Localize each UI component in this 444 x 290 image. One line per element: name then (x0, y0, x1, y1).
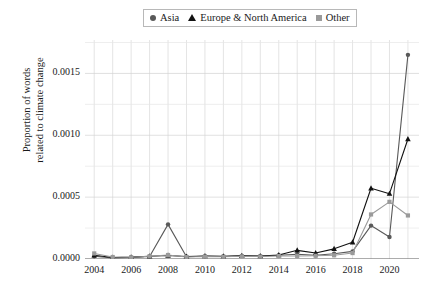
square-icon (316, 15, 322, 21)
y-tick-label: 0.0015 (32, 66, 80, 77)
x-tick-label: 2020 (369, 264, 409, 275)
x-tick-label: 2010 (185, 264, 225, 275)
plot-svg (85, 40, 419, 259)
plot-area (85, 40, 419, 259)
legend-label-europe-north-america: Europe & North America (200, 11, 306, 24)
legend-entry-asia[interactable]: Asia (150, 11, 179, 24)
x-tick-label: 2004 (74, 264, 114, 275)
x-tick-label: 2016 (296, 264, 336, 275)
legend-label-other: Other (326, 11, 350, 24)
chart-legend: Asia Europe & North America Other (143, 9, 357, 27)
legend-entry-other[interactable]: Other (316, 11, 350, 24)
x-tick-label: 2012 (222, 264, 262, 275)
x-tick-label: 2018 (333, 264, 373, 275)
y-tick-label: 0.0005 (32, 190, 80, 201)
y-tick-label: 0.0010 (32, 128, 80, 139)
y-tick-label: 0.0000 (32, 252, 80, 263)
circle-icon (150, 15, 156, 21)
y-axis-title-line2: related to climate change (33, 15, 46, 205)
x-tick-label: 2006 (111, 264, 151, 275)
legend-label-asia: Asia (160, 11, 179, 24)
triangle-icon (188, 14, 196, 21)
x-tick-label: 2008 (148, 264, 188, 275)
legend-entry-europe-north-america[interactable]: Europe & North America (188, 11, 306, 24)
y-axis-title-line1: Proportion of words (21, 68, 32, 153)
y-axis-title: Proportion of words related to climate c… (20, 15, 46, 205)
x-tick-label: 2014 (259, 264, 299, 275)
climate-words-line-chart: Asia Europe & North America Other Propor… (0, 0, 444, 290)
